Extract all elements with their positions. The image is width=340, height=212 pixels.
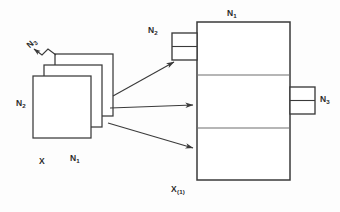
main-block-outline [197, 22, 290, 180]
arrow-group [108, 62, 193, 148]
stack-group [33, 54, 113, 138]
block-label-n1: N1 [227, 8, 237, 18]
stack-n3-leader [34, 49, 56, 55]
arrow-top [113, 62, 174, 96]
tab-right [290, 87, 315, 114]
main-block [197, 22, 290, 180]
stack-label-n1: N1 [70, 153, 80, 163]
arrow-bottom [108, 123, 193, 148]
diagram-canvas: N3 N2 X N1 N1 N2 N3 X(1) [0, 0, 340, 212]
stack-label-x: X [39, 156, 45, 166]
stack-rect-front [33, 76, 91, 138]
tab-left-label-n2: N2 [148, 25, 158, 35]
stack-label-n2: N2 [16, 98, 26, 108]
tab-right-label-n3: N3 [320, 94, 330, 104]
block-label-x1: X(1) [171, 184, 185, 194]
diagram-graphics [0, 0, 340, 212]
arrow-middle [110, 105, 193, 108]
tab-left [172, 33, 197, 60]
